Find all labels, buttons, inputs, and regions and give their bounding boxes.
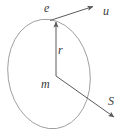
label-radius-vector: r — [58, 44, 63, 56]
label-angular-momentum-vector: S — [108, 95, 114, 107]
orbit-vector-diagram: e u r m S — [0, 0, 133, 139]
orbit-ellipse — [1, 14, 98, 134]
diagram-canvas — [0, 0, 133, 139]
s-vector-arrow — [56, 76, 114, 117]
label-orbiting-body: e — [44, 2, 49, 14]
label-central-mass: m — [41, 78, 50, 90]
label-velocity-vector: u — [103, 5, 109, 17]
velocity-vector-arrow — [50, 7, 93, 21]
